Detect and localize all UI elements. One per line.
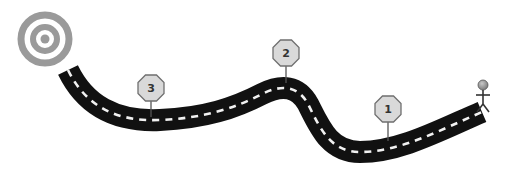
milestone-label-1: 1 [384,103,392,116]
target-icon [21,15,69,63]
milestone-sign-1: 1 [375,96,401,141]
road [68,70,482,152]
milestone-label-2: 2 [282,47,290,60]
milestone-sign-2: 2 [273,40,299,83]
roadmap-diagram: 3 2 1 [0,0,509,183]
milestone-label-3: 3 [147,82,155,95]
